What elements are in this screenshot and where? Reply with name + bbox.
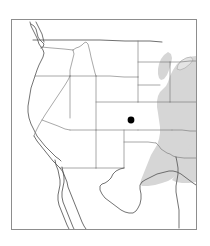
locality-dot xyxy=(128,117,135,124)
pacific-coastline xyxy=(28,22,61,161)
map-canvas xyxy=(0,0,210,246)
distribution-map-figure: Western and Central United States Colora… xyxy=(0,0,210,246)
canada-border-line xyxy=(33,40,162,42)
shaded-range-area xyxy=(140,52,196,186)
